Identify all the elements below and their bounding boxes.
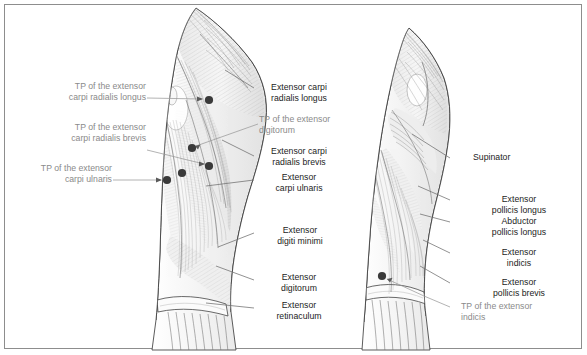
label-supinator: Supinator	[473, 152, 565, 163]
label-extensor-indicis: Extensor indicis	[473, 247, 565, 269]
label-extensor-carpi-ulnaris: Extensor carpi ulnaris	[259, 172, 339, 194]
label-extensor-pollicis-brevis: Extensor pollicis brevis	[473, 277, 565, 299]
label-extensor-digiti-minimi: Extensor digiti minimi	[259, 225, 341, 247]
label-extensor-digitorum: Extensor digitorum	[259, 272, 339, 294]
label-extensor-carpi-radialis-longus: Extensor carpi radialis longus	[259, 82, 339, 104]
right-forearm-drawing	[362, 26, 450, 352]
label-extensor-retinaculum: Extensor retinaculum	[259, 300, 339, 322]
label-extensor-pollicis-longus: Extensor pollicis longus	[473, 194, 565, 216]
leader-tp-ei	[424, 296, 450, 307]
label-extensor-carpi-radialis-brevis: Extensor carpi radialis brevis	[259, 146, 339, 168]
label-tp-extensor-digitorum: TP of the extensor digitorum	[259, 114, 365, 136]
label-abductor-pollicis-longus: Abductor pollicis longus	[473, 216, 565, 238]
label-tp-extensor-carpi-radialis-longus: TP of the extensor carpi radialis longus	[40, 81, 146, 103]
left-forearm-drawing	[152, 4, 266, 352]
label-tp-extensor-carpi-radialis-brevis: TP of the extensor carpi radialis brevis	[40, 122, 146, 144]
label-tp-extensor-indicis: TP of the extensor indicis	[461, 301, 571, 323]
anatomy-figure-page: TP of the extensor carpi radialis longus…	[0, 0, 587, 355]
label-tp-extensor-carpi-ulnaris: TP of the extensor carpi ulnaris	[40, 163, 112, 185]
